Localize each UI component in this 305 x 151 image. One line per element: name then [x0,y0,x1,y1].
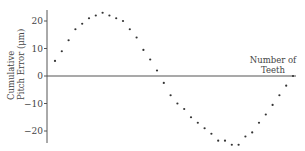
data-point [61,50,63,52]
y-tick-label: 0 [37,71,43,81]
data-point [197,122,199,124]
data-point [224,140,226,142]
data-point [285,85,287,87]
data-point [204,127,206,129]
data-point [265,113,267,115]
x-axis-title-line1: Number of [250,55,297,65]
data-point [129,28,131,30]
data-point [278,94,280,96]
data-point [292,75,294,77]
data-point [136,36,138,38]
data-point [251,131,253,133]
data-point [108,14,110,16]
data-point [183,108,185,110]
data-point [149,58,151,60]
y-tick-label: −20 [24,126,43,136]
data-points [54,12,294,146]
data-point [176,102,178,104]
data-point [217,140,219,142]
data-point [231,144,233,146]
data-point [244,135,246,137]
data-point [68,39,70,41]
y-axis-title-line2: Pitch Error (μm) [16,29,26,100]
y-axis-title: Cumulative Pitch Error (μm) [6,29,26,100]
data-point [163,82,165,84]
data-point [156,69,158,71]
data-point [54,60,56,62]
data-point [115,17,117,19]
chart: 20100−10−20 Number of Teeth Cumulative P… [0,0,305,151]
y-tick-label: 20 [32,16,44,26]
y-tick-label: −10 [24,99,43,109]
data-point [258,122,260,124]
data-point [74,28,76,30]
data-point [142,49,144,51]
data-point [95,14,97,16]
data-point [88,17,90,19]
x-axis-title-line2: Teeth [261,65,285,75]
data-point [190,116,192,118]
y-axis-title-line1: Cumulative [6,51,16,100]
y-ticks: 20100−10−20 [24,16,47,136]
data-point [81,23,83,25]
data-point [210,133,212,135]
y-tick-label: 10 [32,44,44,54]
data-point [122,20,124,22]
data-point [170,94,172,96]
data-point [102,12,104,14]
data-point [238,144,240,146]
data-point [272,104,274,106]
